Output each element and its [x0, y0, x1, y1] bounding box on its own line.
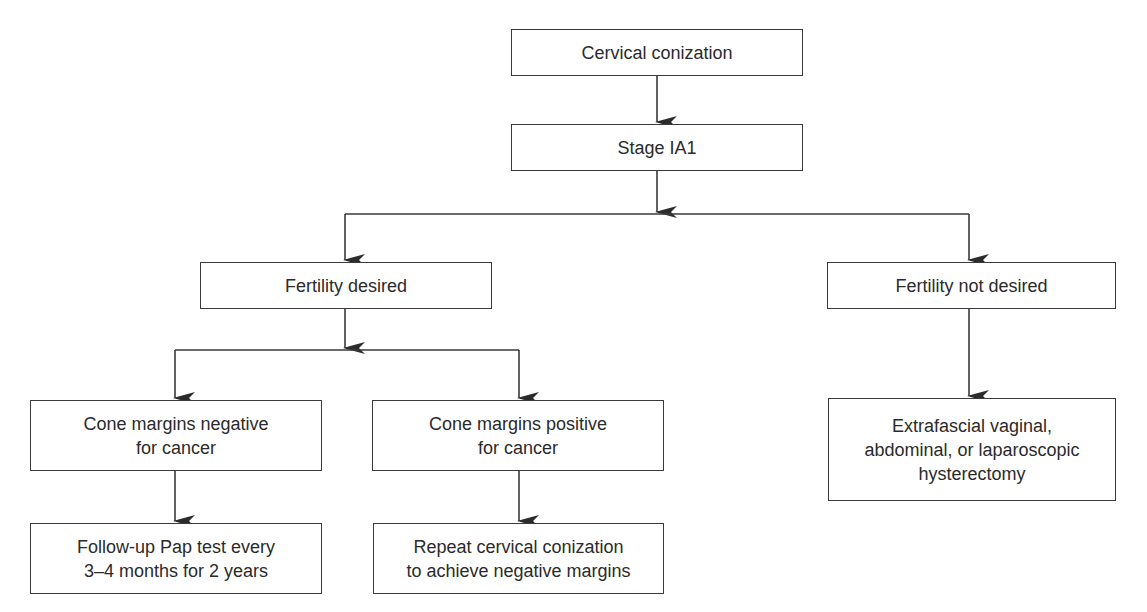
node-label: Fertility desired	[285, 274, 407, 298]
node-label-line: 3–4 months for 2 years	[77, 559, 275, 583]
node-cone-margins-negative: Cone margins negative for cancer	[30, 400, 322, 471]
node-label-line: for cancer	[83, 436, 268, 460]
node-label: Stage IA1	[617, 136, 696, 160]
node-label-line: abdominal, or laparoscopic	[864, 438, 1079, 462]
node-label: Cervical conization	[581, 41, 732, 65]
node-label-line: Extrafascial vaginal,	[864, 414, 1079, 438]
node-label: Fertility not desired	[895, 274, 1047, 298]
node-repeat-conization: Repeat cervical conization to achieve ne…	[373, 523, 664, 594]
node-label-line: Repeat cervical conization	[406, 535, 630, 559]
node-label-line: to achieve negative margins	[406, 559, 630, 583]
node-label-line: hysterectomy	[864, 462, 1079, 486]
node-label-line: Follow-up Pap test every	[77, 535, 275, 559]
node-label-line: Cone margins positive	[429, 412, 607, 436]
node-cone-margins-positive: Cone margins positive for cancer	[372, 400, 664, 471]
node-follow-up-pap: Follow-up Pap test every 3–4 months for …	[30, 523, 322, 594]
node-label-line: Cone margins negative	[83, 412, 268, 436]
node-fertility-not-desired: Fertility not desired	[827, 262, 1116, 309]
node-label-line: for cancer	[429, 436, 607, 460]
node-stage-ia1: Stage IA1	[511, 124, 803, 171]
node-hysterectomy: Extrafascial vaginal, abdominal, or lapa…	[828, 398, 1116, 501]
node-fertility-desired: Fertility desired	[200, 262, 492, 309]
node-cervical-conization: Cervical conization	[511, 29, 803, 76]
